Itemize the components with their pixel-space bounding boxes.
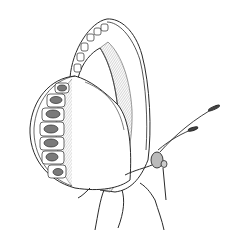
- antennae: [158, 104, 220, 152]
- butterfly-illustration: [0, 0, 237, 251]
- illustration-canvas: [0, 0, 237, 251]
